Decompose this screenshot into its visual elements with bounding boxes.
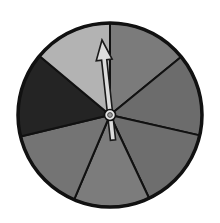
spinner-wheel (0, 0, 220, 223)
spinner-hub-icon (105, 110, 116, 121)
hub-inner (108, 113, 113, 118)
spinner (0, 0, 220, 223)
